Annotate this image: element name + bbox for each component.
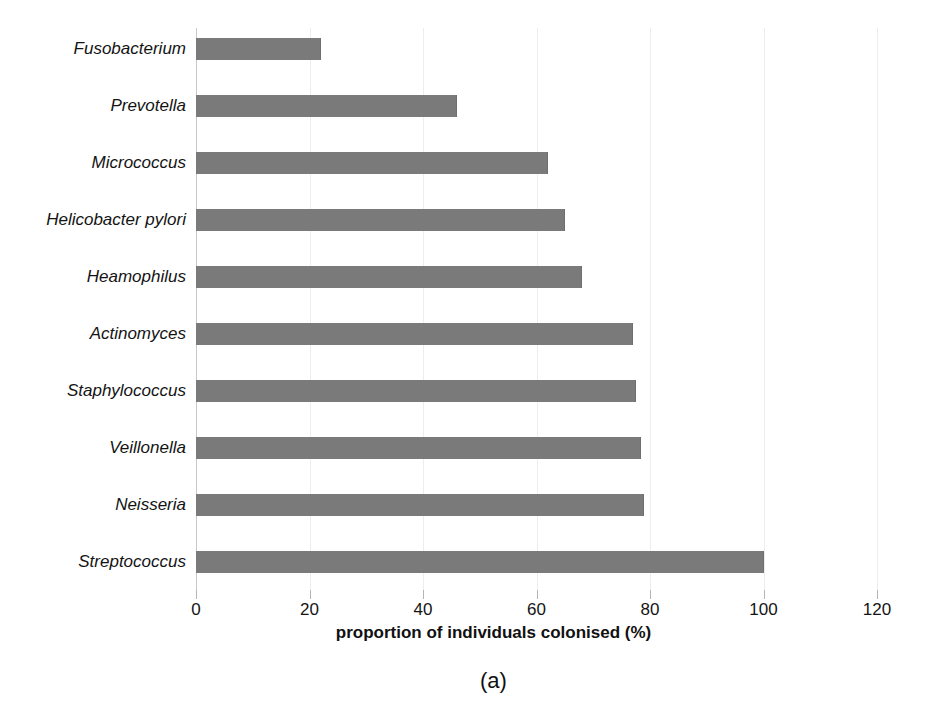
x-axis-tick-label: 100 xyxy=(749,599,777,621)
x-axis-tick-labels: 020406080100120 xyxy=(196,599,877,623)
bar[interactable] xyxy=(196,152,548,174)
bar[interactable] xyxy=(196,380,636,402)
x-axis-tick-label: 0 xyxy=(191,599,200,621)
bar-row xyxy=(196,85,877,142)
bar-row xyxy=(196,313,877,370)
bar-row xyxy=(196,142,877,199)
y-axis-category-label: Prevotella xyxy=(6,96,186,116)
plot-area xyxy=(196,28,877,590)
bar-row xyxy=(196,28,877,85)
y-axis-category-label: Fusobacterium xyxy=(6,39,186,59)
x-axis-tick-label: 40 xyxy=(414,599,433,621)
x-axis-tick-label: 20 xyxy=(300,599,319,621)
bar[interactable] xyxy=(196,437,641,459)
y-axis-category-label: Helicobacter pylori xyxy=(6,210,186,230)
bar[interactable] xyxy=(196,323,633,345)
x-axis-tick xyxy=(196,590,197,599)
x-axis-tick xyxy=(650,590,651,599)
bar[interactable] xyxy=(196,266,582,288)
bar-row xyxy=(196,427,877,484)
bar[interactable] xyxy=(196,494,644,516)
figure-caption: (a) xyxy=(0,668,929,694)
y-axis-category-label: Actinomyces xyxy=(6,324,186,344)
x-axis-tick-marks xyxy=(196,590,877,599)
bar[interactable] xyxy=(196,209,565,231)
bar[interactable] xyxy=(196,38,321,60)
x-axis-title: proportion of individuals colonised (%) xyxy=(0,623,929,643)
bar-row xyxy=(196,370,877,427)
y-axis-category-label: Heamophilus xyxy=(6,267,186,287)
bar-row xyxy=(196,484,877,541)
bar[interactable] xyxy=(196,95,457,117)
x-axis-tick-label: 60 xyxy=(527,599,546,621)
figure-panel: FusobacteriumPrevotellaMicrococcusHelico… xyxy=(0,0,929,709)
x-axis-tick-label: 120 xyxy=(863,599,891,621)
y-axis-category-label: Neisseria xyxy=(6,495,186,515)
bar[interactable] xyxy=(196,551,764,573)
y-axis-category-label: Staphylococcus xyxy=(6,381,186,401)
x-axis-tick xyxy=(877,590,878,599)
y-axis-category-labels: FusobacteriumPrevotellaMicrococcusHelico… xyxy=(0,28,186,590)
gridline xyxy=(877,28,878,590)
bar-row xyxy=(196,199,877,256)
x-axis-tick xyxy=(310,590,311,599)
x-axis-tick xyxy=(423,590,424,599)
x-axis-tick xyxy=(764,590,765,599)
x-axis-tick-label: 80 xyxy=(641,599,660,621)
bar-row xyxy=(196,256,877,313)
x-axis-tick xyxy=(537,590,538,599)
y-axis-category-label: Streptococcus xyxy=(6,552,186,572)
y-axis-category-label: Micrococcus xyxy=(6,153,186,173)
y-axis-category-label: Veillonella xyxy=(6,438,186,458)
